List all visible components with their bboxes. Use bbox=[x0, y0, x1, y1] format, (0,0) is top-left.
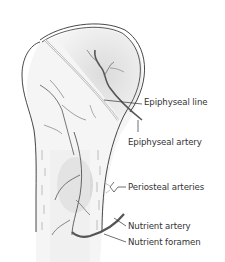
label-epiphyseal-artery: Epiphyseal artery bbox=[128, 137, 202, 147]
label-nutrient-artery: Nutrient artery bbox=[128, 221, 191, 231]
label-epiphyseal-line: Epiphyseal line bbox=[144, 97, 207, 107]
bone-diagram bbox=[0, 0, 225, 262]
label-nutrient-foramen: Nutrient foramen bbox=[128, 237, 201, 247]
label-periosteal-arteries: Periosteal arteries bbox=[128, 182, 204, 192]
